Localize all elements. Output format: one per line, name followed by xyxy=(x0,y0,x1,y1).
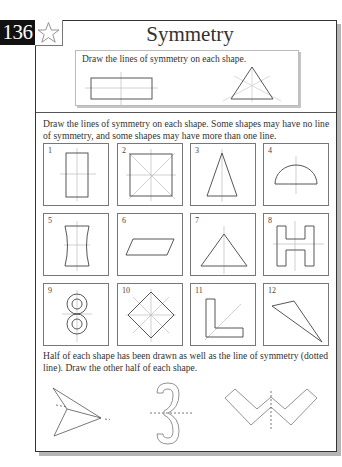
section1-instruction: Draw the lines of symmetry on each shape… xyxy=(43,118,335,142)
section-divider xyxy=(36,112,336,113)
triangle-shape xyxy=(191,214,255,275)
shape-cell-2: 2 xyxy=(117,143,183,206)
semicircle-shape xyxy=(264,144,328,205)
isosceles-triangle-shape xyxy=(191,144,255,205)
letter-w-half-shape xyxy=(225,383,320,433)
number-three-half-shape xyxy=(150,381,200,446)
shape-cell-4: 4 xyxy=(263,143,329,206)
shape-cell-8: 8 xyxy=(263,213,329,276)
shape-cell-3: 3 xyxy=(190,143,256,206)
example-shapes xyxy=(76,51,298,105)
shape-cell-9: 9 xyxy=(43,283,109,346)
section2-instruction: Half of each shape has been drawn as wel… xyxy=(43,350,335,374)
star-outline-icon xyxy=(35,20,62,45)
shape-cell-7: 7 xyxy=(190,213,256,276)
shape-cell-10: 10 xyxy=(117,283,183,346)
star-badge xyxy=(35,20,63,46)
square-shape xyxy=(118,144,182,205)
letter-l-shape xyxy=(191,284,255,345)
figure-eight-shape xyxy=(44,284,108,345)
shape-cell-6: 6 xyxy=(117,213,183,276)
arrowhead-half-shape xyxy=(50,378,110,438)
rhombus-shape xyxy=(118,284,182,345)
shape-cell-11: 11 xyxy=(190,283,256,346)
shape-cell-1: 1 xyxy=(43,143,109,206)
parallelogram-shape xyxy=(118,214,182,275)
rectangle-shape xyxy=(44,144,108,205)
page-title: Symmetry xyxy=(62,22,318,47)
shape-cell-5: 5 xyxy=(43,213,109,276)
page-number: 136 xyxy=(0,20,35,45)
example-box: Draw the lines of symmetry on each shape… xyxy=(75,50,299,106)
concave-rectangle-shape xyxy=(44,214,108,275)
letter-h-shape xyxy=(264,214,328,275)
scalene-triangle-shape xyxy=(264,284,328,345)
shape-cell-12: 12 xyxy=(263,283,329,346)
